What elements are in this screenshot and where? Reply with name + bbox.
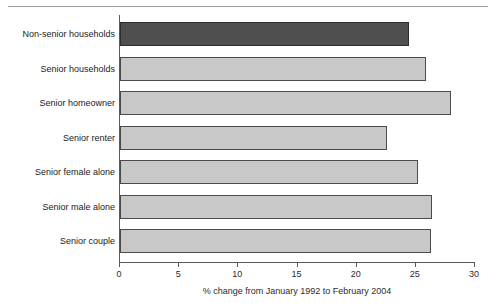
bar xyxy=(120,195,432,219)
category-label: Senior male alone xyxy=(42,202,115,212)
x-axis-tick xyxy=(297,263,298,267)
bar xyxy=(120,160,418,184)
x-axis-title: % change from January 1992 to February 2… xyxy=(119,286,475,296)
category-label: Senior female alone xyxy=(35,167,115,177)
category-label: Senior households xyxy=(40,64,115,74)
x-axis-tick-label: 10 xyxy=(232,269,242,279)
x-axis-tick-label: 20 xyxy=(351,269,361,279)
x-axis-tick xyxy=(356,263,357,267)
bar-row: Senior male alone xyxy=(0,195,496,219)
bar-chart: Non-senior householdsSenior householdsSe… xyxy=(0,0,496,308)
category-label: Senior renter xyxy=(63,133,115,143)
bar-row: Senior female alone xyxy=(0,160,496,184)
bar xyxy=(120,91,451,115)
x-axis-tick xyxy=(178,263,179,267)
bar-row: Senior couple xyxy=(0,229,496,253)
x-axis-tick xyxy=(119,263,120,267)
bar xyxy=(120,57,426,81)
bar-row: Senior renter xyxy=(0,126,496,150)
bar-row: Senior homeowner xyxy=(0,91,496,115)
x-axis-tick-label: 15 xyxy=(291,269,301,279)
category-label: Senior couple xyxy=(60,236,115,246)
bar xyxy=(120,22,409,46)
x-axis-tick xyxy=(474,263,475,267)
bar xyxy=(120,126,387,150)
x-axis-tick-label: 0 xyxy=(116,269,121,279)
x-axis-tick-label: 30 xyxy=(469,269,479,279)
x-axis-tick xyxy=(415,263,416,267)
category-label: Non-senior households xyxy=(22,29,115,39)
x-axis-tick-label: 25 xyxy=(410,269,420,279)
bar-row: Non-senior households xyxy=(0,22,496,46)
x-axis-tick xyxy=(237,263,238,267)
bar-row: Senior households xyxy=(0,57,496,81)
category-label: Senior homeowner xyxy=(39,98,115,108)
bar xyxy=(120,229,431,253)
x-axis-tick-label: 5 xyxy=(176,269,181,279)
